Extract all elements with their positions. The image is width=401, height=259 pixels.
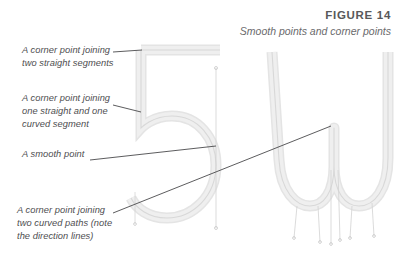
annotation-corner-straight-curve: A corner point joining one straight and … bbox=[22, 92, 140, 132]
direction-line-w-bowl2-right bbox=[372, 203, 374, 236]
annotation-corner-two-straight: A corner point joining two straight segm… bbox=[22, 44, 140, 70]
glyph-w-body bbox=[272, 52, 388, 206]
figure-illustration: FIGURE 14 Smooth points and corner point… bbox=[0, 0, 401, 259]
annotation-corner-two-curves: A corner point joining two curved paths … bbox=[17, 204, 143, 244]
direction-line-w-bowl2-left bbox=[350, 206, 352, 238]
glyph-w bbox=[272, 52, 388, 245]
direction-line-w-bowl1-right bbox=[318, 206, 320, 242]
annotation-smooth-point: A smooth point bbox=[22, 148, 140, 161]
direction-line-w-bowl1-left bbox=[294, 206, 297, 238]
glyph-five bbox=[131, 50, 220, 230]
